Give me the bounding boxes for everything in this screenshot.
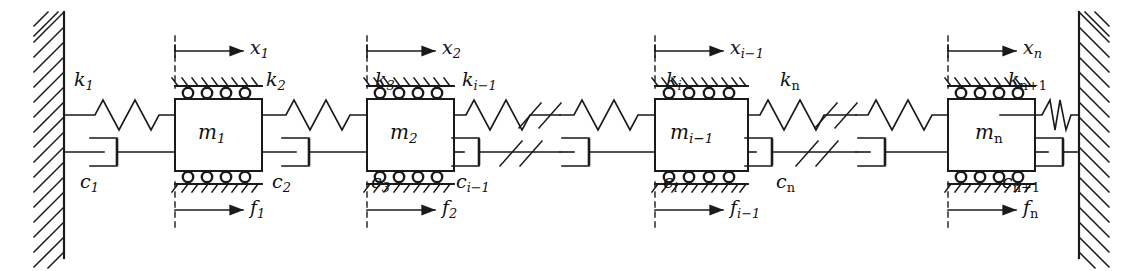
displacement-arrow-xi-1 bbox=[655, 45, 723, 57]
damper-cn bbox=[856, 138, 948, 166]
label-fn: fn bbox=[1023, 198, 1038, 221]
damper-c1 bbox=[64, 138, 175, 166]
diagram-canvas bbox=[0, 0, 1143, 271]
label-x1: x1 bbox=[250, 38, 269, 61]
label-c2: c2 bbox=[272, 172, 291, 195]
fixed-wall-right bbox=[1079, 12, 1109, 268]
label-fi-1: fi−1 bbox=[730, 198, 760, 221]
spring-mass-damper-diagram: k1 k2 k3 ki−1 ki kn kn+1 c1 c2 c3 ci−1 c… bbox=[0, 0, 1143, 271]
label-k2: k2 bbox=[266, 70, 286, 93]
fixed-wall-left bbox=[34, 12, 64, 268]
label-xi-1: xi−1 bbox=[730, 38, 764, 61]
label-mn: mn bbox=[975, 122, 1003, 145]
label-ki-1: ki−1 bbox=[462, 70, 497, 93]
spring-k2 bbox=[262, 100, 367, 130]
label-kn: kn bbox=[780, 70, 800, 93]
spring-ki-1 bbox=[560, 100, 655, 130]
spring-ki bbox=[748, 100, 856, 130]
spring-kn bbox=[856, 100, 948, 130]
label-f2: f2 bbox=[442, 198, 457, 221]
spring-k1 bbox=[64, 100, 175, 130]
spring-k3 bbox=[454, 100, 560, 130]
break-mark-damper-right bbox=[796, 141, 838, 166]
damper-c3 bbox=[452, 138, 560, 166]
damper-c2 bbox=[262, 138, 367, 166]
label-ki: ki bbox=[666, 70, 682, 93]
label-m1: m1 bbox=[198, 122, 226, 145]
displacement-arrow-xn bbox=[948, 45, 1016, 57]
label-cn1: cn+1 bbox=[1002, 172, 1040, 195]
damper-cn1 bbox=[1035, 138, 1079, 166]
label-m2: m2 bbox=[390, 122, 418, 145]
label-cn: cn bbox=[776, 172, 795, 195]
spring-kn1-final bbox=[1035, 100, 1079, 130]
displacement-arrow-x2 bbox=[367, 45, 435, 57]
label-ci-1: ci−1 bbox=[456, 172, 490, 195]
label-c3: c3 bbox=[371, 172, 390, 195]
label-x2: x2 bbox=[442, 38, 461, 61]
label-kn1: kn+1 bbox=[1008, 70, 1047, 93]
label-xn: xn bbox=[1023, 38, 1042, 61]
label-f1: f1 bbox=[250, 198, 265, 221]
label-c1: c1 bbox=[80, 172, 99, 195]
displacement-arrow-x1 bbox=[175, 45, 243, 57]
break-mark-damper-left bbox=[500, 141, 542, 166]
damper-ci-1 bbox=[560, 138, 655, 166]
label-k3: k3 bbox=[375, 70, 395, 93]
label-mi-1: mi−1 bbox=[670, 122, 713, 145]
label-k1: k1 bbox=[74, 70, 94, 93]
label-ci: ci bbox=[663, 172, 678, 195]
